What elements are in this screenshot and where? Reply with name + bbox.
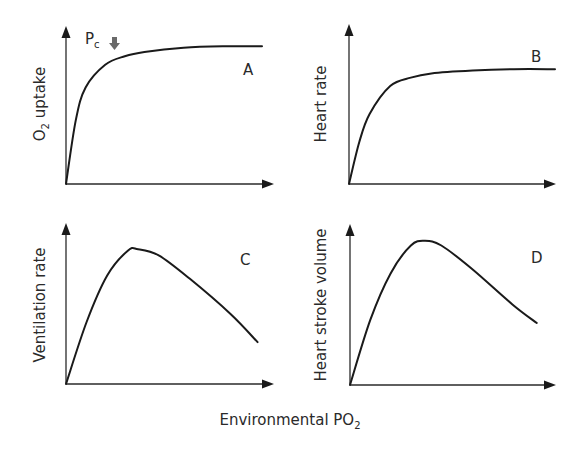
down-arrow-icon xyxy=(109,37,120,50)
x-axis-arrow xyxy=(544,381,556,390)
panel-b: Heart rate B xyxy=(312,24,556,189)
curve-c xyxy=(66,248,258,384)
x-axis-arrow xyxy=(262,380,274,389)
x-axis-label: Environmental PO2 xyxy=(219,411,360,431)
pc-label: Pc xyxy=(85,30,100,50)
y-axis-label-d: Heart stroke volume xyxy=(312,229,330,382)
panel-label-d: D xyxy=(531,249,543,267)
y-axis-label-c: Ventilation rate xyxy=(31,247,49,362)
panel-label-c: C xyxy=(240,251,250,269)
panel-label-b: B xyxy=(531,48,541,66)
y-axis-arrow xyxy=(62,223,71,235)
y-axis-arrow xyxy=(345,24,354,36)
x-axis-arrow xyxy=(544,180,556,189)
figure: O2 uptake A Pc Heart rate B Ventilation … xyxy=(0,0,583,453)
y-axis-arrow xyxy=(346,224,355,236)
y-axis-label-b: Heart rate xyxy=(312,66,330,143)
panel-label-a: A xyxy=(243,61,254,79)
panel-a: O2 uptake A Pc xyxy=(31,26,274,189)
panel-d: Heart stroke volume D xyxy=(312,224,556,390)
curve-b xyxy=(349,69,555,184)
y-axis-arrow xyxy=(62,26,71,38)
panel-c: Ventilation rate C xyxy=(31,223,274,389)
curve-a xyxy=(66,46,262,184)
y-axis-label-a: O2 uptake xyxy=(31,67,51,141)
curve-d xyxy=(350,241,537,385)
x-axis-arrow xyxy=(262,180,274,189)
